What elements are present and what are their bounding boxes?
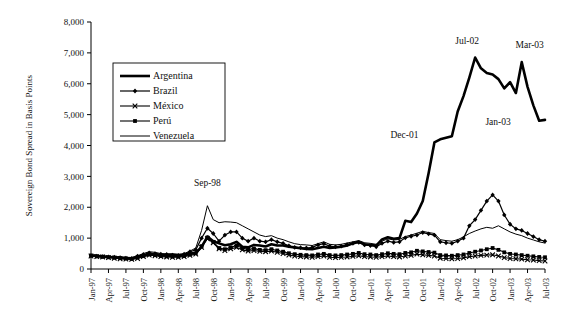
series-marker — [246, 239, 250, 244]
series-marker — [223, 247, 227, 251]
series-marker — [269, 237, 273, 242]
x-axis-tick-label: Jan-02 — [436, 278, 446, 301]
series-marker — [363, 252, 367, 256]
series-marker — [444, 254, 448, 258]
series-marker — [514, 253, 518, 257]
series-marker — [392, 252, 396, 256]
y-axis-tick-label: 5,000 — [64, 110, 85, 120]
legend-label-per: Perú — [153, 115, 171, 126]
series-marker — [159, 254, 163, 258]
series-marker — [316, 253, 320, 257]
series-marker — [421, 250, 425, 254]
series-marker — [275, 249, 279, 253]
series-marker — [339, 253, 343, 257]
x-axis-tick-label: Apr-02 — [453, 278, 463, 302]
series-marker — [334, 254, 338, 258]
series-marker — [467, 251, 471, 255]
series-marker — [206, 236, 210, 240]
series-marker — [176, 255, 180, 259]
x-axis-tick-label: Jan-99 — [226, 278, 236, 301]
series-marker — [240, 246, 244, 250]
series-marker — [281, 250, 285, 254]
x-axis-tick-label: Apr-98 — [174, 278, 184, 302]
legend-label-brazil: Brazil — [153, 85, 178, 96]
series-marker — [182, 254, 186, 258]
series-marker — [473, 250, 477, 254]
series-marker — [433, 251, 437, 255]
series-marker — [491, 246, 495, 250]
series-marker — [228, 230, 232, 235]
x-axis-tick-label: Apr-00 — [314, 278, 324, 302]
series-marker — [141, 254, 145, 258]
series-marker — [258, 248, 262, 252]
series-marker — [485, 247, 489, 251]
y-axis-tick-label: 1,000 — [64, 233, 85, 243]
series-marker — [403, 251, 407, 255]
series-marker — [217, 246, 221, 250]
series-marker — [304, 253, 308, 257]
series-marker — [479, 249, 483, 253]
x-axis-tick-label: Jul-97 — [121, 278, 131, 299]
series-marker — [537, 255, 541, 259]
x-axis-tick-label: Oct-97 — [139, 278, 149, 302]
x-axis-tick-label: Oct-00 — [348, 278, 358, 302]
series-marker — [502, 250, 506, 254]
x-axis-tick-label: Apr-99 — [244, 278, 254, 302]
series-marker — [194, 251, 198, 255]
x-axis-tick-label: Oct-98 — [209, 278, 219, 302]
series-marker — [229, 245, 233, 249]
series-marker — [520, 228, 524, 233]
x-axis-tick-label: Apr-03 — [523, 278, 533, 302]
series-marker — [328, 253, 332, 257]
series-marker — [275, 239, 279, 244]
series-marker — [263, 239, 267, 244]
series-marker — [531, 254, 535, 258]
annotation-jul-02: Jul-02 — [455, 36, 479, 46]
x-axis-tick-label: Jul-03 — [541, 278, 551, 299]
series-marker — [211, 240, 215, 244]
annotation-jan-03: Jan-03 — [485, 117, 511, 127]
x-axis-tick-label: Apr-97 — [104, 278, 114, 302]
legend-label-mxico: México — [153, 100, 184, 111]
series-marker — [531, 234, 535, 239]
series-venezuela — [91, 206, 545, 258]
series-marker — [153, 253, 157, 257]
x-axis-tick-label: Jul-00 — [331, 278, 341, 299]
x-axis-tick-label: Oct-01 — [418, 278, 428, 302]
series-marker — [508, 252, 512, 256]
sovereign-bond-spread-chart: 01,0002,0003,0004,0005,0006,0007,0008,00… — [0, 0, 566, 333]
x-axis-tick-label: Oct-99 — [279, 278, 289, 302]
x-axis-tick-label: Jul-01 — [401, 278, 411, 299]
series-marker — [456, 253, 460, 257]
x-axis-tick-label: Jul-99 — [261, 278, 271, 299]
series-marker — [462, 253, 466, 257]
series-marker — [380, 252, 384, 256]
x-axis-tick-label: Jan-98 — [156, 278, 166, 301]
series-marker — [310, 254, 314, 258]
series-marker — [293, 252, 297, 256]
y-axis-tick-label: 8,000 — [64, 17, 85, 27]
series-marker — [543, 255, 547, 259]
y-axis-tick-label: 2,000 — [64, 202, 85, 212]
series-marker — [171, 255, 175, 259]
series-marker — [299, 253, 303, 257]
series-line — [91, 206, 545, 258]
legend: ArgentinaBrazilMéxicoPerúVenezuela — [113, 63, 225, 141]
annotation-dec-01: Dec-01 — [390, 130, 418, 140]
y-axis-tick-label: 0 — [80, 264, 85, 274]
annotation-sep-98: Sep-98 — [194, 178, 221, 188]
legend-label-venezuela: Venezuela — [153, 130, 195, 141]
series-marker — [427, 250, 431, 254]
y-axis-tick-label: 6,000 — [64, 79, 85, 89]
x-axis-tick-label: Oct-02 — [488, 278, 498, 302]
series-marker — [235, 244, 239, 248]
series-marker — [200, 244, 204, 248]
x-axis-tick-label: Jan-01 — [366, 278, 376, 301]
x-axis-tick-label: Jul-02 — [471, 278, 481, 299]
series-marker — [293, 245, 297, 250]
series-marker — [252, 236, 256, 241]
series-marker — [133, 119, 137, 123]
series-marker — [374, 253, 378, 257]
series-marker — [147, 253, 151, 257]
series-mxico — [89, 236, 548, 263]
